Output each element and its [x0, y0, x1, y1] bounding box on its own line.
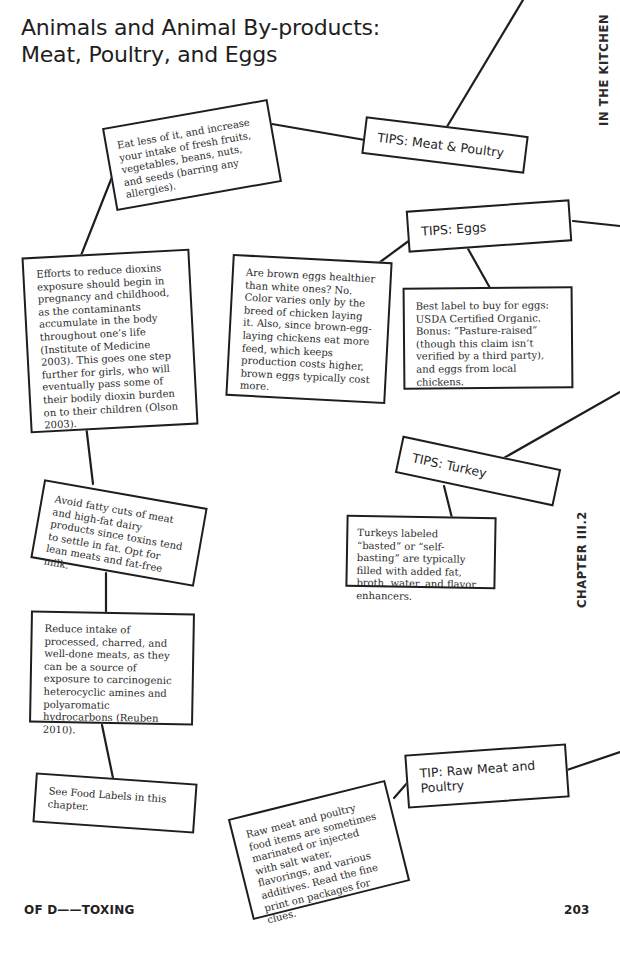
page-title: Animals and Animal By-products: Meat, Po…	[21, 14, 501, 68]
tip-turkey: TIPS: Turkey	[395, 436, 561, 507]
note-dioxins: Efforts to reduce dioxins exposure shoul…	[22, 249, 199, 434]
running-footer: OF D——TOXING	[24, 903, 135, 917]
note-raw-marinated: Raw meat and poultry food items are some…	[228, 780, 410, 920]
title-line-1: Animals and Animal By-products:	[21, 14, 501, 41]
title-line-2: Meat, Poultry, and Eggs	[21, 41, 501, 68]
book-page: Animals and Animal By-products: Meat, Po…	[0, 0, 620, 960]
note-fatty-cuts: Avoid fatty cuts of meat and high-fat da…	[30, 479, 207, 587]
note-eat-less: Eat less of it, and increase your intake…	[102, 99, 282, 211]
chapter-label: CHAPTER III.2	[575, 511, 589, 608]
tip-raw-meat-poultry: TIP: Raw Meat and Poultry	[404, 743, 569, 808]
section-label-in-the-kitchen: IN THE KITCHEN	[597, 14, 611, 126]
note-egg-label: Best label to buy for eggs: USDA Certifi…	[403, 286, 574, 389]
tip-eggs: TIPS: Eggs	[406, 199, 573, 252]
note-turkey-basted: Turkeys labeled “basted” or “self-bastin…	[345, 515, 496, 590]
tip-meat-poultry: TIPS: Meat & Poultry	[361, 116, 528, 174]
page-number: 203	[564, 903, 590, 917]
note-brown-eggs: Are brown eggs healthier than white ones…	[225, 254, 392, 404]
note-food-labels: See Food Labels in this chapter.	[32, 772, 197, 833]
note-processed-meats: Reduce intake of processed, charred, and…	[29, 611, 195, 726]
